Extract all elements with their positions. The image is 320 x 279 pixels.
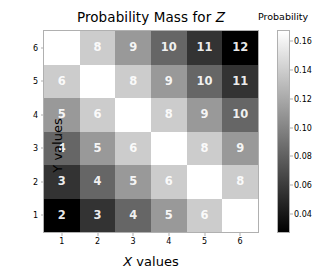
x-tick-mark	[133, 232, 134, 236]
heatmap-cell: 10	[151, 31, 187, 65]
heatmap-cell-value: 7	[236, 210, 244, 222]
heatmap-cell: 11	[187, 31, 223, 65]
x-tick-label: 3	[131, 237, 136, 246]
x-axis-label-suffix: values	[132, 254, 178, 269]
heatmap-cell: 5	[115, 165, 151, 199]
y-tick-label: 5	[33, 77, 38, 86]
heatmap-cell-value: 8	[165, 109, 173, 121]
heatmap-cell: 4	[115, 199, 151, 233]
heatmap-cell: 6	[151, 165, 187, 199]
colorbar-title: Probability	[258, 11, 308, 22]
heatmap-cell-value: 12	[232, 42, 248, 54]
heatmap-grid: 7891011126789101156789104567893456782345…	[44, 31, 258, 232]
heatmap-cell-value: 8	[200, 143, 208, 155]
heatmap-cell: 7	[187, 165, 223, 199]
colorbar-tick-mark	[289, 40, 293, 41]
y-tick-label: 4	[33, 110, 38, 119]
x-tick-label: 4	[166, 237, 171, 246]
heatmap-cell-value: 5	[129, 176, 137, 188]
heatmap-cell-value: 5	[93, 143, 101, 155]
heatmap-cell-value: 8	[236, 176, 244, 188]
colorbar-tick-mark	[289, 156, 293, 157]
heatmap-cell: 9	[222, 132, 258, 166]
colorbar-tick-mark	[289, 127, 293, 128]
heatmap-cell-value: 7	[200, 176, 208, 188]
chart-title-variable: Z	[216, 9, 225, 25]
heatmap-cell: 7	[115, 98, 151, 132]
y-tick-mark	[41, 181, 45, 182]
colorbar-tick-label: 0.04	[294, 210, 312, 219]
matplotlib-figure: Probability Mass for Z 78910111267891011…	[0, 0, 320, 279]
heatmap-cell: 6	[115, 132, 151, 166]
y-tick-mark	[41, 81, 45, 82]
heatmap-cell: 3	[80, 199, 116, 233]
heatmap-cell-value: 7	[129, 109, 137, 121]
x-axis-label: X values	[43, 254, 259, 269]
heatmap-cell-value: 9	[200, 109, 208, 121]
x-tick-label: 1	[59, 237, 64, 246]
y-tick-label: 6	[33, 43, 38, 52]
y-tick-mark	[41, 215, 45, 216]
heatmap-cell-value: 11	[232, 76, 248, 88]
heatmap-cell-value: 11	[196, 42, 212, 54]
heatmap-cell-value: 7	[165, 143, 173, 155]
heatmap-cell: 7	[80, 65, 116, 99]
heatmap-cell: 6	[187, 199, 223, 233]
heatmap-cell-value: 9	[165, 76, 173, 88]
colorbar: 0.160.140.120.100.080.060.04	[277, 30, 290, 233]
heatmap-cell-value: 6	[93, 109, 101, 121]
heatmap-cell: 8	[151, 98, 187, 132]
heatmap-cell: 8	[187, 132, 223, 166]
heatmap-cell-value: 6	[200, 210, 208, 222]
y-tick-label: 3	[33, 144, 38, 153]
heatmap-cell-value: 8	[93, 42, 101, 54]
x-tick-label: 6	[238, 237, 243, 246]
colorbar-tick-mark	[289, 214, 293, 215]
heatmap-cell-value: 6	[129, 143, 137, 155]
y-axis-label: Y values	[50, 56, 65, 236]
heatmap-cell-value: 4	[129, 210, 137, 222]
heatmap-cell: 9	[151, 65, 187, 99]
colorbar-tick-label: 0.16	[294, 36, 312, 45]
heatmap-cell-value: 10	[196, 76, 212, 88]
heatmap-cell-value: 8	[129, 76, 137, 88]
chart-title: Probability Mass for Z	[43, 9, 259, 25]
heatmap-cell-value: 4	[93, 176, 101, 188]
heatmap-cell: 8	[222, 165, 258, 199]
colorbar-tick-mark	[289, 69, 293, 70]
heatmap-cell: 7	[222, 199, 258, 233]
colorbar-tick-mark	[289, 98, 293, 99]
x-tick-label: 5	[202, 237, 207, 246]
x-axis-label-variable: X	[123, 254, 132, 269]
heatmap-cell-value: 10	[232, 109, 248, 121]
heatmap-cell: 6	[80, 98, 116, 132]
heatmap-cell-value: 9	[236, 143, 244, 155]
colorbar-tick-label: 0.10	[294, 123, 312, 132]
heatmap-cell: 4	[80, 165, 116, 199]
y-tick-label: 2	[33, 177, 38, 186]
x-tick-label: 2	[95, 237, 100, 246]
x-tick-mark	[168, 232, 169, 236]
chart-title-prefix: Probability Mass for	[77, 9, 216, 25]
heatmap-cell-value: 5	[165, 210, 173, 222]
heatmap-cell: 9	[187, 98, 223, 132]
heatmap-cell: 8	[80, 31, 116, 65]
colorbar-tick-label: 0.06	[294, 181, 312, 190]
y-tick-mark	[41, 47, 45, 48]
y-tick-mark	[41, 148, 45, 149]
x-tick-mark	[240, 232, 241, 236]
colorbar-tick-label: 0.12	[294, 94, 312, 103]
colorbar-tick-label: 0.08	[294, 152, 312, 161]
heatmap-cell-value: 3	[93, 210, 101, 222]
heatmap-axes: 7891011126789101156789104567893456782345…	[43, 30, 259, 233]
heatmap-cell-value: 9	[129, 42, 137, 54]
heatmap-cell: 7	[151, 132, 187, 166]
y-tick-label: 1	[33, 211, 38, 220]
heatmap-cell: 5	[80, 132, 116, 166]
x-tick-mark	[204, 232, 205, 236]
heatmap-cell: 10	[187, 65, 223, 99]
colorbar-tick-mark	[289, 185, 293, 186]
heatmap-cell-value: 10	[161, 42, 177, 54]
heatmap-cell-value: 6	[165, 176, 173, 188]
y-tick-mark	[41, 114, 45, 115]
